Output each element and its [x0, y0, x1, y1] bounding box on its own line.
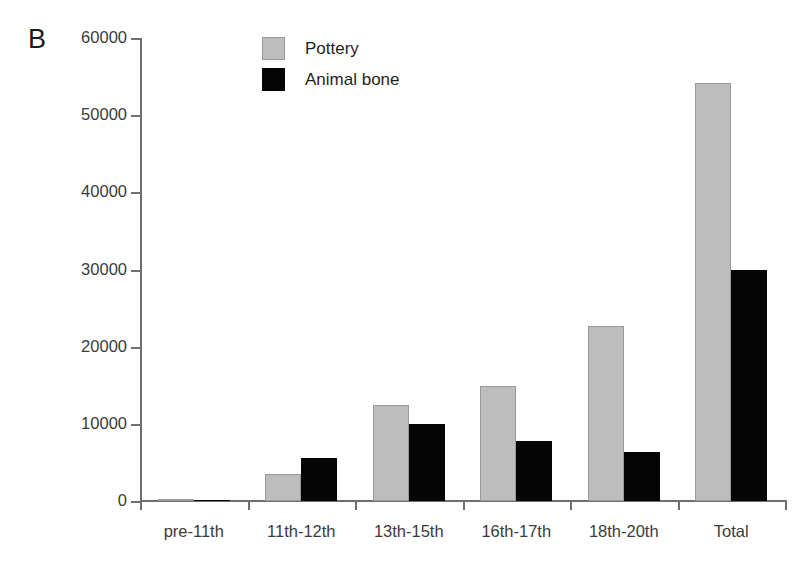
x-axis-label: Total [714, 522, 749, 541]
y-tick-label: 40000 [81, 183, 127, 202]
y-tick-label: 10000 [81, 414, 127, 433]
bar-animal-bone-13th-15th [409, 424, 445, 501]
y-tick-label: 30000 [81, 260, 127, 279]
plot-area: 6000050000400003000020000100000 pre-11th… [140, 38, 785, 501]
legend-item: Pottery [262, 33, 400, 64]
animal-bone-swatch [262, 68, 285, 91]
legend-item: Animal bone [262, 64, 400, 95]
x-axis-label: 18th-20th [589, 522, 659, 541]
legend-label: Pottery [305, 39, 359, 59]
panel-label: B [28, 26, 47, 53]
x-axis-label: pre-11th [164, 522, 224, 541]
y-tick-mark [131, 424, 140, 426]
y-tick-label: 60000 [81, 28, 127, 47]
x-axis-left-cap [140, 500, 142, 510]
y-tick-mark [131, 270, 140, 272]
bar-pottery-18th-20th [588, 326, 624, 501]
bar-chart: B 6000050000400003000020000100000 pre-11… [0, 0, 797, 564]
bar-pottery-pre-11th [158, 499, 194, 501]
y-tick-mark [131, 347, 140, 349]
bar-pottery-11th-12th [265, 474, 301, 501]
bar-animal-bone-11th-12th [301, 458, 337, 501]
y-tick-mark [131, 115, 140, 117]
y-tick-mark [131, 501, 140, 503]
pottery-swatch [262, 37, 285, 60]
y-tick-label: 20000 [81, 337, 127, 356]
y-tick-mark [131, 38, 140, 40]
y-tick-mark [131, 192, 140, 194]
x-tick-mark [678, 500, 680, 510]
legend: PotteryAnimal bone [262, 33, 400, 95]
y-tick-label: 0 [118, 491, 127, 510]
x-axis-label: 11th-12th [267, 522, 336, 541]
x-tick-mark [248, 500, 250, 510]
bar-pottery-13th-15th [373, 405, 409, 501]
x-tick-mark [570, 500, 572, 510]
x-tick-mark [785, 500, 787, 510]
y-tick-label: 50000 [81, 105, 127, 124]
x-axis-label: 16th-17th [481, 522, 551, 541]
x-tick-mark [355, 500, 357, 510]
x-tick-mark [463, 500, 465, 510]
bar-animal-bone-16th-17th [516, 441, 552, 501]
bar-animal-bone-18th-20th [624, 452, 660, 501]
bar-animal-bone-pre-11th [194, 500, 230, 501]
bar-pottery-total [695, 83, 731, 501]
bar-animal-bone-total [731, 270, 767, 501]
legend-label: Animal bone [305, 70, 400, 90]
x-axis-label: 13th-15th [374, 522, 444, 541]
bar-pottery-16th-17th [480, 386, 516, 501]
